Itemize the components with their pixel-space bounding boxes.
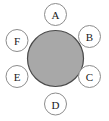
satellite-node-b[interactable]: B — [79, 26, 101, 48]
hub-circle[interactable] — [28, 31, 84, 87]
satellite-label-e: E — [14, 71, 21, 83]
diagram-canvas: A B C D E F — [0, 0, 109, 121]
satellite-label-d: D — [52, 99, 60, 111]
satellite-label-a: A — [52, 9, 60, 21]
satellite-node-a[interactable]: A — [45, 4, 67, 26]
satellite-label-b: B — [86, 31, 93, 43]
satellite-label-c: C — [86, 71, 93, 83]
satellite-node-f[interactable]: F — [6, 30, 28, 52]
satellite-label-f: F — [14, 35, 20, 47]
satellite-node-e[interactable]: E — [6, 66, 28, 88]
hub-spoke-diagram: A B C D E F — [0, 0, 109, 121]
satellite-node-d[interactable]: D — [45, 93, 67, 115]
satellite-node-c[interactable]: C — [79, 66, 101, 88]
